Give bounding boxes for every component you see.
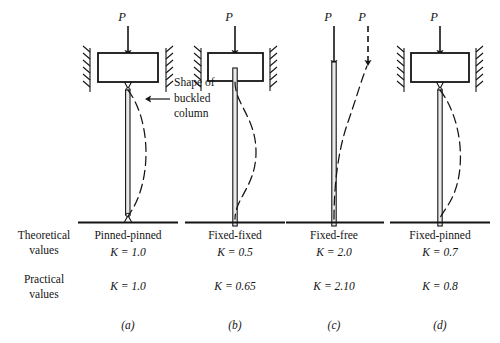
buckled-shape-d xyxy=(440,90,460,219)
load-label-a: P xyxy=(118,10,126,26)
buckled-shape-b xyxy=(235,82,256,219)
column-shaft-d xyxy=(438,90,442,226)
load-label-c2: P xyxy=(358,10,366,26)
diagram-fixed-fixed xyxy=(185,26,285,226)
buckled-shape-c xyxy=(334,66,367,219)
annotation-line-1: Shape of xyxy=(174,75,215,91)
load-label-d: P xyxy=(430,10,438,26)
diagram-pinned-pinned xyxy=(78,26,178,223)
guide-block-a xyxy=(98,53,158,82)
wall-hatch-right-a xyxy=(166,46,173,92)
column-shaft-b xyxy=(233,68,237,226)
annotation-line-3: column xyxy=(174,106,215,122)
practical-k-b: K = 0.65 xyxy=(214,279,255,293)
guide-block-d xyxy=(411,53,469,82)
load-label-b: P xyxy=(225,10,233,26)
annotation-line-2: buckled xyxy=(174,91,215,107)
row-label-theoretical: Theoretical values xyxy=(18,228,70,258)
diagram-fixed-free xyxy=(286,26,384,226)
condition-name-c: Fixed-free xyxy=(310,228,358,242)
buckled-shape-annotation: Shape of buckled column xyxy=(174,75,215,122)
load-label-c1: P xyxy=(324,10,332,26)
condition-name-d: Fixed-pinned xyxy=(409,228,470,242)
practical-k-c: K = 2.10 xyxy=(313,279,354,293)
column-shaft-a xyxy=(126,90,130,215)
column-end-conditions-figure: P P P P P Shape of buckled column Theore… xyxy=(0,0,500,343)
condition-name-b: Fixed-fixed xyxy=(208,228,262,242)
row-label-practical-line2: values xyxy=(24,287,64,302)
wall-hatch-right-b xyxy=(270,46,277,91)
diagram-fixed-pinned xyxy=(390,26,490,226)
practical-k-d: K = 0.8 xyxy=(422,279,458,293)
wall-hatch-left-a xyxy=(83,46,90,92)
subfigure-label-b: (b) xyxy=(228,318,241,332)
row-label-theoretical-line2: values xyxy=(18,243,70,258)
wall-hatch-left-d xyxy=(397,46,404,92)
theoretical-k-a: K = 1.0 xyxy=(110,245,146,259)
theoretical-k-d: K = 0.7 xyxy=(422,245,458,259)
condition-name-a: Pinned-pinned xyxy=(94,228,161,242)
buckled-shape-a xyxy=(128,90,146,216)
theoretical-k-b: K = 0.5 xyxy=(217,245,253,259)
row-label-practical: Practical values xyxy=(24,272,64,302)
subfigure-label-d: (d) xyxy=(433,318,446,332)
subfigure-label-c: (c) xyxy=(328,318,341,332)
theoretical-k-c: K = 2.0 xyxy=(316,245,352,259)
wall-hatch-right-d xyxy=(476,46,483,92)
row-label-practical-line1: Practical xyxy=(24,272,64,287)
row-label-theoretical-line1: Theoretical xyxy=(18,228,70,243)
practical-k-a: K = 1.0 xyxy=(110,279,146,293)
subfigure-label-a: (a) xyxy=(121,318,134,332)
